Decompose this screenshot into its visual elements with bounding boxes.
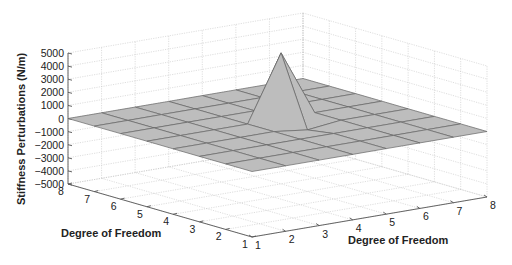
left-axis-tick-label: 4 (163, 215, 169, 227)
left-axis-label: Degree of Freedom (61, 227, 161, 239)
right-axis-tick-label: 5 (389, 216, 395, 228)
z-tick-label: 3000 (41, 73, 65, 85)
right-axis-tick-label: 4 (356, 222, 362, 234)
z-tick-label: 2000 (41, 86, 65, 98)
surface-plot: 500040003000200010000−1000−2000−3000−400… (0, 0, 512, 265)
left-axis-tick-label: 2 (216, 230, 222, 242)
surface (68, 53, 487, 172)
z-tick-label: 0 (58, 113, 64, 125)
right-axis-label: Degree of Freedom (348, 234, 448, 246)
left-axis-tick-label: 6 (111, 200, 117, 212)
z-tick-label: −1000 (35, 126, 65, 138)
left-axis-tick-label: 1 (242, 238, 248, 250)
left-axis-tick-labels: 87654321 (58, 185, 248, 250)
right-axis-tick-label: 1 (255, 239, 261, 251)
z-tick-label: 4000 (41, 60, 65, 72)
z-tick-label: −2000 (35, 139, 65, 151)
right-axis-tick-label: 7 (457, 205, 463, 217)
left-axis-tick-label: 7 (84, 193, 90, 205)
right-axis-tick-label: 6 (423, 210, 429, 222)
right-axis-tick-label: 2 (289, 233, 295, 245)
left-axis-tick-label: 8 (58, 185, 64, 197)
z-tick-label: −3000 (35, 152, 65, 164)
z-tick-label: 5000 (41, 47, 65, 59)
z-tick-label: −4000 (35, 165, 65, 177)
right-axis-tick-label: 3 (322, 228, 328, 240)
left-axis-tick-label: 3 (190, 223, 196, 235)
z-tick-labels: 500040003000200010000−1000−2000−3000−400… (35, 47, 65, 190)
z-tick-label: 1000 (41, 99, 65, 111)
left-axis-tick-label: 5 (137, 208, 143, 220)
z-axis-label: Stiffness Perturbations (N/m) (15, 52, 27, 205)
right-axis-tick-label: 8 (490, 199, 496, 211)
